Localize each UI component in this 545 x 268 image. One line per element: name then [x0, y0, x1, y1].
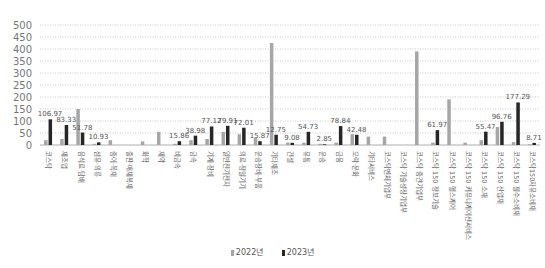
x-tick-label: 코스닥 150 소재	[480, 151, 489, 198]
bar-2022년	[92, 144, 96, 145]
x-tick-label: 제약	[157, 151, 166, 163]
bar-2022년	[463, 143, 467, 145]
bar-2022년	[141, 141, 145, 145]
data-label: 9.08	[284, 134, 300, 142]
bar-2022년	[431, 143, 435, 145]
bar-2022년	[480, 140, 484, 145]
y-tick-label: 200	[13, 92, 32, 103]
data-label: 2.85	[316, 135, 332, 143]
bar-chart: 050100150200250300350400450500106.97코스닥8…	[0, 0, 545, 250]
bar-2022년	[334, 143, 338, 145]
data-label: 12.75	[266, 126, 286, 134]
x-tick-label: 코스닥150자유소비재	[528, 151, 537, 211]
x-tick-label: 코스닥 중견기업부	[415, 151, 424, 201]
x-tick-label: 오락·문화	[351, 151, 359, 177]
x-tick-label: 비금속	[173, 151, 182, 169]
bar-2022년	[173, 144, 177, 145]
bar-2022년	[383, 137, 387, 145]
x-tick-label: 코스닥 150 커뮤니케이션서비스	[464, 151, 473, 240]
bar-2022년	[189, 140, 193, 145]
bar-2022년	[286, 143, 290, 145]
y-tick-label: 100	[13, 116, 32, 127]
x-tick-label: 의료·정밀기기	[238, 151, 247, 189]
bar-2022년	[157, 132, 161, 145]
x-tick-label: 운송	[318, 151, 326, 163]
bar-2023년	[436, 130, 440, 145]
bar-2022년	[318, 144, 322, 145]
bar-2022년	[302, 143, 306, 145]
bar-2023년	[532, 143, 536, 145]
bar-2023년	[484, 132, 488, 145]
bar-2023년	[355, 135, 359, 145]
x-tick-label: 코스닥 150 산업재	[496, 151, 505, 204]
x-tick-label: 코스닥 150 헬스케어	[448, 151, 457, 210]
data-label: 8.71	[526, 134, 542, 142]
y-tick-label: 0	[26, 140, 32, 151]
bar-2022년	[109, 140, 113, 145]
x-tick-label: 건설	[286, 151, 295, 163]
x-tick-label: 코스닥 150 필수소비재	[512, 151, 521, 216]
bar-2023년	[226, 126, 230, 145]
x-tick-label: 코스닥 150 정보기술	[431, 151, 440, 210]
data-label: 96.76	[492, 113, 513, 121]
x-tick-label: 금속	[189, 151, 197, 163]
x-tick-label: 코스닥 기술성장기업부	[399, 151, 408, 213]
x-tick-label: 일반전기전자	[222, 151, 231, 187]
bar-2023년	[500, 122, 504, 145]
bar-2023년	[210, 126, 214, 145]
bar-2022년	[351, 134, 355, 145]
x-tick-label: 화학	[141, 151, 150, 163]
bar-2023년	[274, 135, 278, 145]
data-label: 38.98	[185, 127, 205, 135]
x-tick-label: 코스닥벤처기업부	[383, 151, 392, 199]
bar-2023년	[258, 141, 262, 145]
x-tick-label: 기타제조	[270, 151, 279, 175]
x-tick-label: 음식료·담배	[77, 151, 86, 183]
y-tick-label: 350	[13, 56, 32, 67]
data-label: 10.93	[88, 133, 108, 141]
bar-2022년	[205, 139, 209, 145]
y-tick-label: 400	[13, 44, 32, 55]
y-tick-label: 150	[13, 104, 32, 115]
data-label: 54.73	[298, 123, 318, 131]
bar-2023년	[291, 143, 295, 145]
data-label: 55.47	[476, 123, 496, 131]
data-label: 78.84	[330, 117, 351, 125]
x-tick-label: 출판·매체복제	[125, 151, 134, 189]
x-tick-label: 제조업	[60, 151, 68, 169]
x-tick-label: 코스닥	[44, 151, 53, 169]
data-label: 42.48	[346, 126, 366, 134]
x-tick-label: 금융	[335, 151, 343, 163]
y-tick-label: 500	[13, 20, 32, 31]
bar-2023년	[194, 136, 198, 145]
bar-2023년	[307, 132, 311, 145]
bar-2022년	[528, 144, 532, 145]
y-tick-label: 250	[13, 80, 32, 91]
legend-item-2023: 2023년	[282, 248, 314, 257]
x-tick-label: 기타서비스	[367, 151, 376, 181]
bar-2023년	[339, 126, 343, 145]
bar-2022년	[60, 139, 64, 145]
y-tick-label: 300	[13, 68, 32, 79]
legend-item-2022: 2022년	[231, 248, 263, 257]
bar-2022년	[512, 142, 516, 145]
bar-2023년	[49, 119, 53, 145]
bar-2023년	[81, 133, 85, 145]
bar-2023년	[178, 141, 182, 145]
bar-2022년	[44, 140, 48, 145]
bar-2023년	[65, 125, 69, 145]
x-tick-label: 종이·목재	[109, 151, 118, 177]
bar-2022년	[238, 134, 242, 145]
bar-2022년	[415, 51, 419, 145]
bar-2022년	[447, 99, 451, 145]
bar-2023년	[242, 128, 246, 145]
bar-2022년	[367, 137, 371, 145]
data-label: 51.78	[72, 124, 92, 132]
bar-2023년	[516, 102, 520, 145]
y-tick-label: 450	[13, 32, 32, 43]
x-tick-label: 기계·장비	[206, 151, 215, 177]
data-label: 177.29	[506, 93, 531, 101]
y-tick-label: 50	[19, 128, 32, 139]
x-tick-label: 섬유·의류	[93, 151, 102, 177]
data-label: 61.97	[427, 121, 447, 129]
